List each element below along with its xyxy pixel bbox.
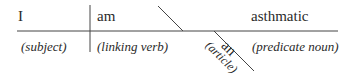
predicate-word: asthmatic [251,9,308,24]
subject-word: I [18,9,23,24]
predicate-slash [158,6,183,31]
predicate-label: (predicate noun) [252,40,339,53]
verb-word: am [97,9,115,24]
subject-label: (subject) [21,40,66,53]
verb-label: (linking verb) [97,40,168,53]
